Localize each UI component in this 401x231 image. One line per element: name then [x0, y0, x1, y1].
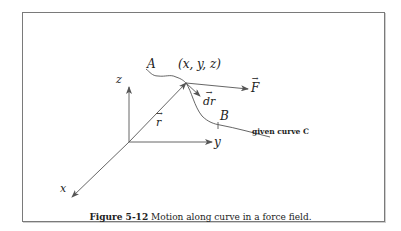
displacement-vector-dr [186, 83, 200, 96]
x-axis [72, 142, 129, 197]
y-axis-label: y [214, 136, 221, 148]
x-axis-label: x [60, 183, 66, 194]
curve-name-label: given curve C [252, 127, 309, 136]
figure-caption: Figure 5-12 Motion along curve in a forc… [0, 212, 401, 222]
point-b-label: B [220, 110, 229, 122]
point-a-label: A [147, 58, 156, 70]
point-xyz-label: (x, y, z) [178, 58, 221, 70]
z-axis-label: z [116, 74, 122, 85]
force-vector-f [186, 83, 248, 89]
figure-diagram [0, 0, 401, 231]
displacement-label: dr [203, 96, 215, 107]
force-label: F [251, 82, 259, 94]
figure-number: Figure 5-12 [89, 212, 148, 222]
position-vector-label: r [156, 117, 161, 128]
caption-text: Motion along curve in a force field. [151, 212, 312, 222]
